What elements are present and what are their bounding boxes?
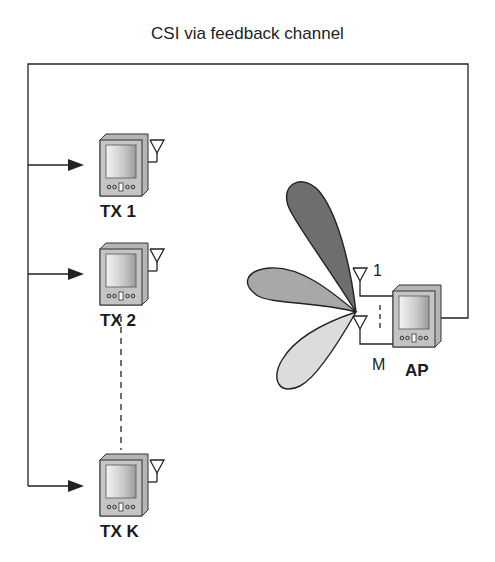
- ap-antenna-m-icon: [353, 316, 393, 344]
- beam-pattern-icon: [248, 182, 356, 389]
- ap-antenna-1-label: 1: [373, 262, 382, 280]
- txk-device-icon: [100, 454, 164, 516]
- txk-label: TX K: [100, 522, 139, 542]
- tx2-device-icon: [100, 243, 164, 305]
- ap-antenna-m-label: M: [372, 356, 385, 374]
- tx2-label: TX 2: [100, 311, 136, 331]
- feedback-channel-line: [28, 64, 468, 486]
- ap-label: AP: [405, 361, 429, 381]
- tx1-label: TX 1: [100, 202, 136, 222]
- diagram-canvas: [0, 0, 495, 562]
- ap-device-icon: [393, 285, 441, 347]
- arrow-to-txk: [28, 480, 84, 492]
- tx1-device-icon: [100, 134, 164, 196]
- arrow-to-tx1: [28, 159, 84, 171]
- arrow-to-tx2: [28, 268, 84, 280]
